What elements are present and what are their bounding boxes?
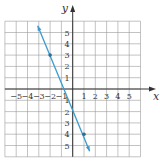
y-tick-label: 3 (65, 51, 70, 60)
y-tick-label: 1 (65, 74, 70, 83)
y-tick-label: 5 (65, 29, 70, 38)
line-arrow-icon (86, 146, 90, 151)
y-tick-label: 4 (65, 130, 70, 139)
x-tick-label: −2 (44, 92, 56, 101)
x-tick-label: 1 (81, 92, 86, 101)
y-tick-label: 2 (65, 108, 70, 117)
x-tick-label: 2 (93, 92, 98, 101)
x-tick-label: 5 (127, 92, 132, 101)
x-tick-label: 3 (104, 92, 109, 101)
x-tick-label: −5 (10, 92, 22, 101)
x-axis-label: x (153, 90, 160, 103)
data-point (48, 53, 52, 57)
coordinate-plane: −5−4−3−2−1123455432112345 x y (0, 0, 160, 167)
y-axis-label: y (61, 2, 69, 15)
x-tick-label: −3 (33, 92, 45, 101)
x-tick-label: 4 (115, 92, 120, 101)
x-tick-label: −4 (22, 92, 34, 101)
data-point (82, 132, 86, 136)
y-axis-arrow-icon (70, 5, 75, 12)
y-tick-label: 5 (65, 142, 70, 151)
y-tick-label: 3 (65, 119, 70, 128)
y-tick-label: 4 (65, 40, 70, 49)
line-arrow-icon (38, 26, 42, 31)
y-tick-label: 2 (65, 62, 70, 71)
